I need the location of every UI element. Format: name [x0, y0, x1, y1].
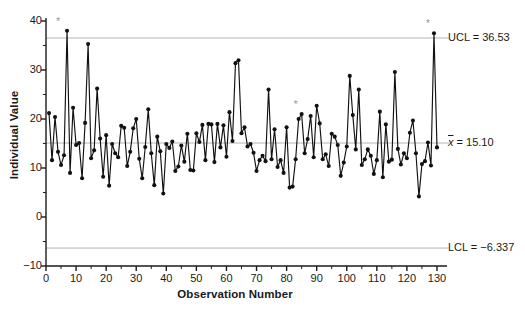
data-point [221, 123, 225, 127]
data-point [203, 158, 207, 162]
data-point [158, 149, 162, 153]
data-point [294, 157, 298, 161]
data-point [381, 175, 385, 179]
data-point [65, 29, 69, 33]
data-point [366, 147, 370, 151]
data-point [242, 125, 246, 129]
data-point [122, 126, 126, 130]
data-point [378, 110, 382, 114]
data-point [375, 158, 379, 162]
data-point [303, 151, 307, 155]
data-point [254, 169, 258, 173]
data-point [327, 164, 331, 168]
data-point [417, 194, 421, 198]
data-point [342, 161, 346, 165]
data-point [390, 158, 394, 162]
data-point [408, 131, 412, 135]
out-of-control-marker: * [56, 15, 61, 27]
data-point [146, 107, 150, 111]
data-point [110, 142, 114, 146]
data-point [282, 171, 286, 175]
data-point [95, 87, 99, 91]
data-point [128, 150, 132, 154]
data-point [423, 159, 427, 163]
data-point [233, 61, 237, 65]
data-point [318, 121, 322, 125]
data-point [432, 31, 436, 35]
data-point [167, 146, 171, 150]
data-point [83, 121, 87, 125]
data-point [426, 140, 430, 144]
data-point [59, 163, 63, 167]
data-point [257, 158, 261, 162]
data-point [143, 145, 147, 149]
data-point [297, 117, 301, 121]
data-point [191, 168, 195, 172]
out-of-control-marker: * [426, 17, 431, 29]
data-point [402, 151, 406, 155]
data-point [107, 184, 111, 188]
data-point [333, 135, 337, 139]
data-point [182, 160, 186, 164]
data-point [50, 158, 54, 162]
data-point [68, 171, 72, 175]
data-point [152, 183, 156, 187]
data-point [194, 131, 198, 135]
data-line [49, 31, 437, 197]
control-chart: Individual Value Observation Number 4030… [0, 0, 525, 311]
data-point [77, 141, 81, 145]
data-point [279, 158, 283, 162]
data-point [140, 176, 144, 180]
data-point [149, 151, 153, 155]
data-point [306, 137, 310, 141]
data-point [164, 142, 168, 146]
data-point [215, 122, 219, 126]
data-point [300, 112, 304, 116]
data-point [321, 157, 325, 161]
data-point [176, 164, 180, 168]
data-point [339, 174, 343, 178]
data-point [113, 151, 117, 155]
data-point [309, 114, 313, 118]
data-point [276, 165, 280, 169]
data-point [86, 42, 90, 46]
data-point [161, 191, 165, 195]
data-point [270, 157, 274, 161]
data-point [53, 115, 57, 119]
data-point [336, 143, 340, 147]
data-point [56, 150, 60, 154]
data-point [104, 133, 108, 137]
data-point [125, 164, 129, 168]
data-point [89, 156, 93, 160]
data-point [312, 155, 316, 159]
data-point [173, 169, 177, 173]
data-point [435, 145, 439, 149]
data-point [230, 139, 234, 143]
data-point [251, 151, 255, 155]
data-point [185, 132, 189, 136]
data-point [357, 88, 361, 92]
data-point [197, 140, 201, 144]
data-point [399, 163, 403, 167]
data-point [179, 143, 183, 147]
data-point [170, 139, 174, 143]
data-point [224, 155, 228, 159]
data-point [315, 104, 319, 108]
data-point [80, 176, 84, 180]
data-point [405, 156, 409, 160]
data-point [236, 58, 240, 62]
data-point [218, 145, 222, 149]
data-point [134, 117, 138, 121]
data-point [209, 122, 213, 126]
data-point [345, 144, 349, 148]
data-point [384, 122, 388, 126]
data-point [98, 137, 102, 141]
data-point [62, 153, 66, 157]
data-point [92, 148, 96, 152]
data-point [354, 147, 358, 151]
data-point [330, 132, 334, 136]
data-point [116, 155, 120, 159]
data-point [420, 162, 424, 166]
data-point [360, 163, 364, 167]
data-point [348, 74, 352, 78]
